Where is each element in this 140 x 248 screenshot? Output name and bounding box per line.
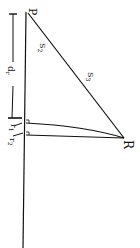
label-s2: S2 — [37, 43, 47, 52]
label-dr: dr — [5, 66, 16, 75]
point-label-r: R — [121, 140, 135, 150]
label-r1: r1 — [8, 124, 18, 132]
diagram-labels: P R S2 S3 dr r1 r2 — [0, 0, 140, 248]
label-s3: S3 — [85, 72, 95, 81]
label-r2: r2 — [7, 138, 17, 146]
point-label-p: P — [26, 8, 39, 16]
